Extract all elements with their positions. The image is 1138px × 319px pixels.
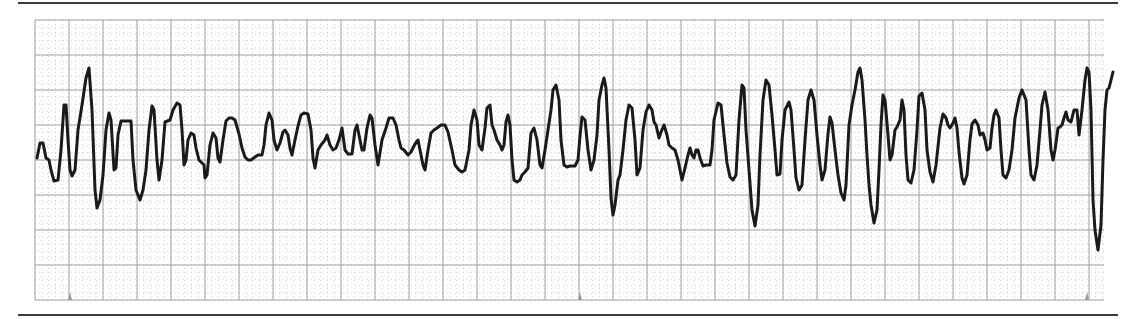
ecg-rhythm-strip [0,0,1138,319]
